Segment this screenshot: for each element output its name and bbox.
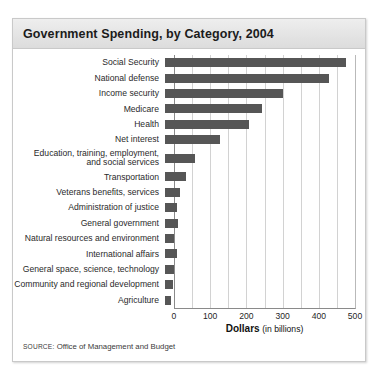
chart-row: National defense: [13, 70, 365, 85]
card-header: Government Spending, by Category, 2004: [13, 19, 365, 49]
chart-row: General government: [13, 215, 365, 230]
x-axis-ticks: 0100200300400500: [174, 310, 355, 324]
bar: [165, 203, 177, 212]
source-note: SOURCE: Office of Management and Budget: [23, 342, 175, 351]
x-axis-title: Dollars (in billions): [174, 323, 355, 334]
chart-row: General space, science, technology: [13, 262, 365, 277]
bar-cell: [165, 185, 347, 200]
bar: [165, 172, 186, 181]
chart-row: Income security: [13, 86, 365, 101]
bar-cell: [165, 262, 347, 277]
bar-rows: Social SecurityNational defenseIncome se…: [13, 55, 365, 308]
chart-row: Medicare: [13, 101, 365, 116]
category-label: Net interest: [13, 135, 165, 144]
x-tick-label: 300: [275, 311, 289, 321]
bar-cell: [165, 200, 347, 215]
bar: [165, 234, 174, 243]
bar: [165, 188, 180, 197]
bar: [165, 74, 329, 83]
bar-cell: [165, 70, 347, 85]
category-label: Transportation: [13, 173, 165, 182]
chart-row: Education, training, employment, and soc…: [13, 147, 365, 169]
bar: [165, 104, 262, 113]
category-label: Income security: [13, 89, 165, 98]
chart-row: Veterans benefits, services: [13, 185, 365, 200]
category-label: International affairs: [13, 250, 165, 259]
bar: [165, 249, 177, 258]
category-label: Social Security: [13, 58, 165, 67]
bar-cell: [165, 117, 347, 132]
chart-row: Transportation: [13, 169, 365, 184]
x-axis-title-unit: (in billions): [262, 324, 303, 334]
category-label: Medicare: [13, 105, 165, 114]
x-tick-label: 0: [172, 311, 177, 321]
category-label: Veterans benefits, services: [13, 188, 165, 197]
bar-cell: [165, 86, 347, 101]
category-label: Natural resources and environment: [13, 234, 165, 243]
category-label: National defense: [13, 74, 165, 83]
x-axis-title-main: Dollars: [226, 323, 260, 334]
chart-row: Agriculture: [13, 292, 365, 307]
category-label: Agriculture: [13, 296, 165, 305]
chart-card: Government Spending, by Category, 2004 S…: [12, 18, 366, 362]
category-label: Community and regional development: [13, 280, 165, 289]
bar-cell: [165, 246, 347, 261]
bar: [165, 154, 195, 163]
category-label: Education, training, employment, and soc…: [13, 149, 165, 168]
bar: [165, 265, 174, 274]
bar-cell: [165, 101, 347, 116]
bar-cell: [165, 147, 347, 169]
x-tick-label: 200: [239, 311, 253, 321]
bar-cell: [165, 169, 347, 184]
bar-cell: [165, 292, 347, 307]
bar: [165, 296, 171, 305]
chart-row: Administration of justice: [13, 200, 365, 215]
category-label: General space, science, technology: [13, 265, 165, 274]
bar-cell: [165, 55, 347, 70]
x-tick-label: 400: [312, 311, 326, 321]
category-label: Administration of justice: [13, 203, 165, 212]
x-tick-label: 500: [348, 311, 362, 321]
bar-cell: [165, 215, 347, 230]
chart-row: Natural resources and environment: [13, 231, 365, 246]
chart-row: Community and regional development: [13, 277, 365, 292]
bar: [165, 219, 178, 228]
chart-body: Social SecurityNational defenseIncome se…: [13, 49, 365, 362]
bar-cell: [165, 277, 347, 292]
bar: [165, 58, 346, 67]
bar: [165, 120, 249, 129]
bar-cell: [165, 231, 347, 246]
chart-row: International affairs: [13, 246, 365, 261]
source-text: Office of Management and Budget: [57, 342, 176, 351]
chart-row: Net interest: [13, 132, 365, 147]
bar: [165, 135, 220, 144]
chart-row: Social Security: [13, 55, 365, 70]
source-keyword: SOURCE:: [23, 343, 54, 350]
chart-row: Health: [13, 117, 365, 132]
category-label: General government: [13, 219, 165, 228]
bar: [165, 280, 173, 289]
category-label: Health: [13, 120, 165, 129]
x-tick-label: 100: [203, 311, 217, 321]
bar-cell: [165, 132, 347, 147]
page-title: Government Spending, by Category, 2004: [23, 27, 274, 41]
bar: [165, 89, 283, 98]
